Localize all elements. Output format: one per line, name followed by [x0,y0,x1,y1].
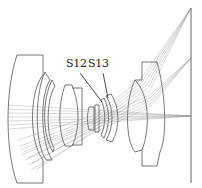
lens-layout-diagram: S12 S13 [0,0,202,188]
on-axis-rays [8,105,191,129]
optical-system-drawing [0,0,202,188]
s12-leader-line [80,73,102,102]
mid-field-rays [20,58,191,170]
biconvex-lens [60,85,78,146]
small-doublet-lens [88,107,95,130]
s13-leader-line [103,73,108,98]
label-s12: S12 [66,58,87,69]
s13-surface-lens [106,94,118,142]
front-meniscus-lens [8,55,43,183]
label-s13: S13 [88,58,109,69]
